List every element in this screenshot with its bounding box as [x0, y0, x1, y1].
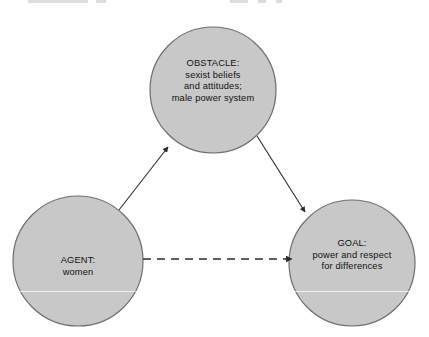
- node-circle-goal[interactable]: [289, 200, 415, 326]
- connector-obstacle-to-goal: [257, 136, 305, 212]
- diagram-canvas: OBSTACLE: sexist beliefs and attitudes; …: [0, 0, 429, 337]
- node-circle-obstacle[interactable]: [150, 27, 276, 153]
- diagram-svg: [0, 0, 429, 337]
- connector-agent-to-obstacle: [119, 147, 168, 210]
- node-circle-agent[interactable]: [13, 196, 143, 326]
